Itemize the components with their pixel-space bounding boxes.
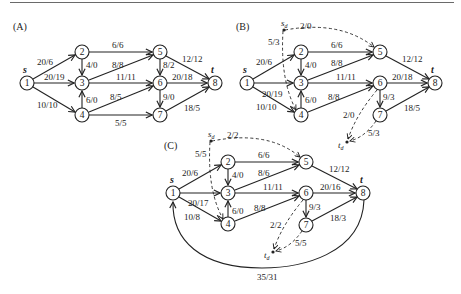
edge-label-4-3: 6/0 <box>232 206 244 216</box>
svg-text:4: 4 <box>299 110 304 120</box>
svg-text:4: 4 <box>80 110 85 120</box>
super-sink-label: td <box>264 250 271 261</box>
edge-label-sd-4: 5/5 <box>195 149 207 159</box>
node-7: 7 <box>299 218 313 232</box>
super-sink-node <box>271 250 274 253</box>
edge-label-2-5: 6/6 <box>112 40 124 50</box>
panel-a: (A) 20/6 20/19 10/10 4/0 6/6 8/8 11/11 6… <box>13 21 222 128</box>
svg-text:5: 5 <box>304 157 309 167</box>
edge-label-1-3: 20/19 <box>262 89 283 99</box>
panel-c: (C) 35/31 20/6 20/17 10/8 4/0 6/6 8/6 11… <box>164 129 370 282</box>
svg-text:7: 7 <box>158 110 163 120</box>
edge-label-6-7: 9/3 <box>383 92 395 102</box>
svg-text:4: 4 <box>226 219 231 229</box>
sink-label: t <box>431 64 435 75</box>
node-2: 2 <box>294 45 308 59</box>
node-4: 4 <box>221 217 235 231</box>
svg-text:1: 1 <box>171 188 176 198</box>
edge-label-8-1: 35/31 <box>257 272 278 282</box>
edge-label-4-6: 8/8 <box>254 203 266 213</box>
edge-label-4-7: 5/5 <box>115 118 127 128</box>
sink-label: t <box>211 64 215 75</box>
panel-a-label: (A) <box>13 21 27 33</box>
node-8: 8 <box>208 76 222 90</box>
sink-label: t <box>360 174 364 185</box>
edge-label-3-6: 11/11 <box>116 72 136 82</box>
node-6: 6 <box>373 76 387 90</box>
node-7: 7 <box>153 108 167 122</box>
edge-label-4-6: 8/5 <box>110 92 122 102</box>
svg-text:5: 5 <box>378 47 383 57</box>
node-5: 5 <box>153 45 167 59</box>
svg-text:5: 5 <box>158 47 163 57</box>
svg-text:1: 1 <box>25 78 30 88</box>
edge-4-6 <box>235 196 299 221</box>
edge-label-1-4: 10/10 <box>37 100 58 110</box>
edge-label-6-7: 9/3 <box>309 202 321 212</box>
edge-label-1-4: 10/8 <box>184 212 201 222</box>
node-5: 5 <box>299 155 313 169</box>
node-3: 3 <box>75 76 89 90</box>
edge-label-2-5: 6/6 <box>258 150 270 160</box>
edge-label-1-3: 20/19 <box>44 72 65 82</box>
svg-text:6: 6 <box>158 78 163 88</box>
node-8: 8 <box>428 76 442 90</box>
edge-sd-4 <box>210 142 223 219</box>
edge-label-7-8: 18/5 <box>404 103 421 113</box>
edge-sd-5 <box>212 138 300 157</box>
edge-label-1-2: 20/6 <box>37 57 54 67</box>
edge-sd-4 <box>283 31 296 110</box>
super-sink-node <box>345 140 348 143</box>
svg-text:1: 1 <box>245 78 250 88</box>
svg-text:3: 3 <box>299 78 304 88</box>
svg-text:2: 2 <box>226 157 231 167</box>
svg-text:7: 7 <box>378 110 383 120</box>
svg-text:2: 2 <box>80 47 85 57</box>
edge-label-5-8: 12/12 <box>329 164 350 174</box>
edge-sd-5 <box>285 27 374 47</box>
flow-network-diagram: (A) 20/6 20/19 10/10 4/0 6/6 8/8 11/11 6… <box>0 0 461 294</box>
node-3: 3 <box>221 186 235 200</box>
svg-text:8: 8 <box>433 78 438 88</box>
node-2: 2 <box>75 45 89 59</box>
node-4: 4 <box>294 108 308 122</box>
node-5: 5 <box>373 45 387 59</box>
edge-label-1-3: 20/17 <box>188 198 209 208</box>
node-1: 1 <box>240 76 254 90</box>
edge-label-1-4: 10/10 <box>256 102 277 112</box>
edge-label-2-3: 4/0 <box>86 60 98 70</box>
edge-label-5-8: 12/12 <box>182 54 203 64</box>
edge-label-6-8: 20/18 <box>392 72 413 82</box>
node-3: 3 <box>294 76 308 90</box>
svg-text:7: 7 <box>304 220 309 230</box>
edge-label-1-2: 20/6 <box>182 168 199 178</box>
super-source-label: sd <box>208 129 216 140</box>
edge-label-3-5: 8/6 <box>258 168 270 178</box>
edge-label-3-6: 11/11 <box>336 72 356 82</box>
edge-label-6-8: 20/18 <box>172 72 193 82</box>
node-2: 2 <box>221 155 235 169</box>
node-6: 6 <box>153 76 167 90</box>
edge-label-6-7: 9/0 <box>163 92 175 102</box>
panel-c-label: (C) <box>164 140 177 152</box>
svg-text:2: 2 <box>299 47 304 57</box>
edge-label-sd-5: 2/0 <box>300 21 312 31</box>
svg-text:8: 8 <box>213 78 218 88</box>
node-1: 1 <box>166 186 180 200</box>
source-label: s <box>22 64 27 75</box>
svg-text:6: 6 <box>304 188 309 198</box>
node-7: 7 <box>373 108 387 122</box>
edge-label-5-6: 8/2 <box>163 60 175 70</box>
edge-label-6-td: 2/0 <box>343 110 355 120</box>
edge-label-6-8: 20/16 <box>320 182 341 192</box>
panel-b-label: (B) <box>236 21 249 33</box>
edge-label-2-5: 6/6 <box>331 40 343 50</box>
super-source-label: sd <box>281 18 289 29</box>
node-8: 8 <box>356 186 370 200</box>
edge-label-7-8: 18/5 <box>184 103 201 113</box>
edge-label-6-td: 2/2 <box>270 220 282 230</box>
svg-text:3: 3 <box>226 188 231 198</box>
source-label: s <box>169 174 174 185</box>
super-sink-label: td <box>338 140 345 151</box>
node-4: 4 <box>75 108 89 122</box>
